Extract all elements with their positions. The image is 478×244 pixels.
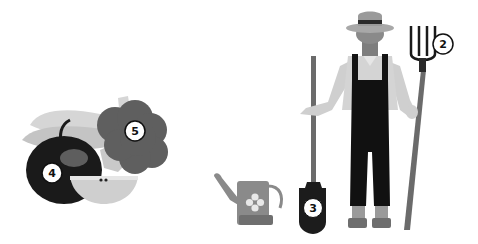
callout-badge-5: 5 (125, 121, 145, 141)
fruit-group: 4 5 (22, 96, 168, 204)
watering-can-icon (214, 173, 282, 225)
svg-text:3: 3 (309, 202, 317, 215)
shovel-icon: 3 (299, 56, 326, 234)
callout-badge-4: 4 (42, 163, 62, 183)
svg-text:4: 4 (48, 167, 56, 180)
boots-icon (348, 206, 391, 228)
illustration: 4 5 3 (0, 0, 478, 244)
svg-text:2: 2 (439, 38, 447, 51)
callout-badge-2: 2 (433, 34, 453, 54)
pitchfork-icon: 2 (404, 26, 453, 230)
callout-badge-3: 3 (304, 199, 323, 218)
straw-hat-icon (346, 12, 394, 34)
svg-text:5: 5 (131, 125, 139, 138)
